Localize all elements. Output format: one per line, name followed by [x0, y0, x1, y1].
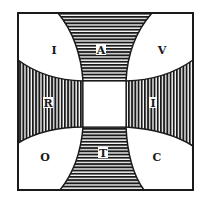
letter-top-left: I — [51, 44, 56, 57]
letter-bottom: T — [99, 147, 108, 160]
letter-top-right: V — [157, 44, 167, 57]
letter-bottom-left: O — [40, 151, 50, 164]
letter-top: A — [96, 44, 106, 57]
letter-bottom-right: C — [153, 151, 162, 164]
letter-left: R — [43, 97, 53, 110]
letter-right: I — [150, 97, 155, 110]
region-center — [83, 81, 126, 127]
letter-square-diagram: I A V R I O T C — [0, 0, 205, 206]
